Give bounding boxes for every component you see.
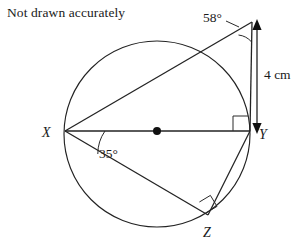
dimension-arrowhead-top (252, 19, 261, 30)
segment-xz (65, 131, 208, 215)
point-label-z: Z (203, 225, 211, 240)
angle-label-35: 35° (99, 146, 118, 161)
geometry-diagram-page: Not drawn accurately 58° 4 cm (0, 0, 304, 243)
right-angle-mark-at-y (233, 116, 248, 131)
figure-canvas: 58° 4 cm X Y Z 35° (0, 0, 304, 243)
angle-label-58: 58° (203, 10, 222, 25)
length-label-4cm: 4 cm (264, 67, 291, 82)
angle-58-leader (226, 21, 239, 27)
point-label-y: Y (259, 127, 269, 142)
circle-centre-dot (153, 127, 161, 135)
angle-arc-58 (239, 35, 252, 42)
right-angle-mark-at-z (199, 195, 217, 213)
segment-xt (65, 22, 252, 131)
point-label-x: X (41, 125, 51, 140)
segment-ty (250, 22, 252, 131)
